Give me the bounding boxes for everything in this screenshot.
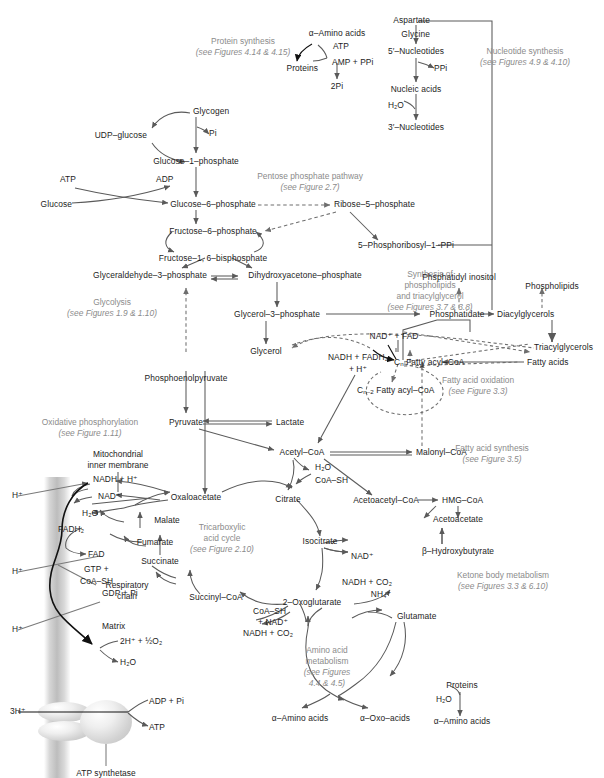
label-nad-fad: NAD⁺ + FAD (370, 331, 419, 342)
note-glycolysis: Glycolysis (see Figures 1.9 & 1.10) (67, 297, 157, 319)
note-line: acid cycle (190, 533, 254, 544)
note-line: Glycolysis (67, 297, 157, 308)
membrane-line2: inner membrane (88, 460, 149, 471)
note-ketone-body-metabolism: Ketone body metabolism (see Figures 3.3 … (457, 570, 549, 592)
label-h-plus-2: H⁺ (12, 566, 23, 577)
label-alpha-amino-acids-top: α–Amino acids (309, 28, 365, 39)
label-fatty-acids: Fatty acids (527, 357, 569, 368)
label-acetoacetate: Acetoacetate (433, 514, 483, 525)
label-dihydroxyacetone-phosphate: Dihydroxyacetone–phosphate (248, 270, 361, 281)
label-phosphoenolpyruvate: Phosphoenolpyruvate (145, 373, 228, 384)
note-line: Ketone body metabolism (457, 570, 549, 581)
label-mitochondrial-inner-membrane: Mitochondrial inner membrane (88, 449, 149, 471)
note-fatty-acid-synthesis: Fatty acid synthesis (see Figure 3.5) (455, 443, 529, 465)
label-aspartate: Aspartate (393, 15, 430, 26)
respiratory-line2: chain (106, 591, 149, 602)
label-phosphatidate: Phosphatidate (430, 309, 485, 320)
note-ref: (see Figure 1.11) (58, 428, 121, 438)
label-udp-glucose: UDP–glucose (95, 130, 147, 141)
label-h2o-oxphos: H₂O (120, 657, 136, 668)
membrane-line1: Mitochondrial (88, 449, 149, 460)
cn-subscript: n (400, 360, 404, 367)
metabolic-map-figure: Protein synthesis (see Figures 4.14 & 4.… (0, 0, 604, 778)
label-lactate: Lactate (276, 417, 304, 428)
label-diacylglycerols: Diacylglycerols (497, 309, 554, 320)
label-2-oxoglutarate: 2–Oxoglutarate (283, 597, 342, 608)
note-ref: (see Figure 3.5) (462, 454, 521, 464)
label-fad: FAD (88, 549, 105, 560)
label-ribose-5-phosphate: Ribose–5–phosphate (334, 199, 415, 210)
note-line: Nucleotide synthesis (480, 46, 570, 57)
note-line: Tricarboxylic (190, 522, 254, 533)
cn-acyl-text: Fatty acyl–CoA (406, 357, 464, 367)
label-fructose-1-6-bisphosphate: Fructose–1, 6–bisphosphate (159, 253, 267, 264)
label-nadh-h: NADH + H⁺ (93, 474, 138, 485)
label-proteins-bottom: Proteins (446, 680, 478, 691)
label-glycogen: Glycogen (193, 106, 229, 117)
label-fumarate: Fumarate (137, 537, 174, 548)
label-2pi: 2Pi (331, 81, 343, 92)
label-alpha-oxo-acids: α–Oxo–acids (360, 713, 410, 724)
note-line: Pentose phosphate pathway (257, 171, 363, 182)
label-fructose-6-phosphate: Fructose–6–phosphate (169, 226, 257, 237)
note-ref: (see Figures 4.14 & 4.15) (196, 47, 291, 57)
label-amp-ppi: AMP + PPi (332, 57, 373, 68)
label-glycerol: Glycerol (250, 346, 282, 357)
label-atp-synthetase: ATP synthetase (76, 768, 136, 778)
label-adp-pi: ADP + Pi (149, 696, 184, 707)
label-nh4: NH₄⁺ (371, 589, 391, 600)
label-isocitrate: Isocitrate (303, 536, 338, 547)
label-cn2-fatty-acyl-coa: Cn–2 Fatty acyl–CoA (357, 385, 434, 398)
label-h-plus-3: H⁺ (12, 624, 23, 635)
label-h-plus-1: H⁺ (12, 490, 23, 501)
note-line: and triacylglycerol (387, 291, 472, 302)
note-line: Protein synthesis (196, 36, 291, 47)
label-glutamate: Glutamate (397, 611, 437, 622)
label-nad-plus-isocitrate: NAD⁺ (351, 551, 374, 562)
note-ref: (see Figures 4.9 & 4.10) (480, 57, 570, 67)
note-tca-cycle: Tricarboxylic acid cycle (see Figure 2.1… (190, 522, 254, 555)
label-h2o-fumarate: H₂O (82, 508, 98, 519)
label-alpha-amino-acids-bottom: α–Amino acids (272, 713, 328, 724)
note-ref: (see Figure 2.10) (190, 544, 254, 554)
note-ref: (see Figures (304, 667, 351, 677)
label-matrix: Matrix (102, 621, 125, 632)
label-succinate: Succinate (141, 556, 179, 567)
label-phospholipids: Phospholipids (525, 281, 578, 292)
label-nadh-co2-oxoglutarate: NADH + CO₂ (243, 628, 293, 639)
label-malate: Malate (154, 515, 180, 526)
cn2-acyl-text: Fatty acyl–CoA (376, 385, 434, 395)
label-proteins-top: Proteins (286, 63, 318, 74)
atp-synthetase-head (80, 700, 132, 744)
label-nadh-co2-isocitrate: NADH + CO₂ (342, 577, 392, 588)
label-ppi: PPi (434, 63, 447, 74)
note-ref: (see Figures 3.3 & 6.10) (458, 581, 548, 591)
note-line: Fatty acid oxidation (442, 375, 514, 386)
label-respiratory-chain: Respiratory chain (106, 580, 149, 602)
note-nucleotide-synthesis: Nucleotide synthesis (see Figures 4.9 & … (480, 46, 570, 68)
note-ref: (see Figure 3.3) (448, 386, 507, 396)
label-glycerol-3-phosphate: Glycerol–3–phosphate (234, 309, 320, 320)
label-nad-plus-ox: NAD⁺ (98, 491, 121, 502)
note-ref: (see Figures 1.9 & 1.10) (67, 308, 157, 318)
label-plus-h: + H⁺ (349, 364, 367, 375)
note-ref: (see Figure 2.7) (280, 182, 339, 192)
label-beta-hydroxybutyrate: β–Hydroxybutyrate (422, 546, 494, 557)
label-pyruvate: Pyruvate (169, 417, 203, 428)
label-glucose-1-phosphate: Glucose–1–phosphate (153, 156, 239, 167)
note-line: Oxidative phosphorylation (42, 417, 138, 428)
note-line: metabolism (304, 656, 351, 667)
label-atp-top: ATP (333, 41, 349, 52)
label-triacylglycerols: Triacylglycerols (534, 342, 593, 353)
label-atp-synth: ATP (149, 722, 165, 733)
label-succinyl-coa: Succinyl–CoA (189, 592, 242, 603)
label-glucose: Glucose (41, 199, 72, 210)
label-h2o-proteins: H₂O (436, 694, 452, 705)
label-h2o-nucleotide: H₂O (388, 100, 404, 111)
label-atp-glycolysis: ATP (60, 174, 76, 185)
note-protein-synthesis: Protein synthesis (see Figures 4.14 & 4.… (196, 36, 291, 58)
label-alpha-amino-acids-right: α–Amino acids (434, 716, 490, 727)
label-3prime-nucleotides: 3′–Nucleotides (388, 122, 444, 133)
note-amino-acid-metabolism: Amino acid metabolism (see Figures 4.4 &… (304, 645, 351, 689)
note-ref: 4.4 & 4.5) (309, 678, 345, 688)
